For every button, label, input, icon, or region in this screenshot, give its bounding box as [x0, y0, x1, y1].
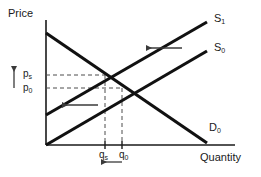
supply-curve-s1	[46, 22, 207, 115]
curve-lines	[46, 22, 207, 145]
price-tick-p0-base: p	[23, 82, 29, 93]
quantity-tick-label-q0: q0	[119, 150, 128, 160]
price-tick-ps-subscript: s	[29, 73, 33, 80]
quantity-tick-q0-subscript: 0	[125, 154, 129, 161]
curve-label-s1: S1	[214, 13, 225, 24]
quantity-tick-q0-base: q	[119, 149, 125, 160]
quantity-tick-qs-subscript: s	[105, 154, 109, 161]
supply-curve-s0	[46, 51, 207, 145]
curve-label-d0-subscript: 0	[217, 127, 221, 134]
price-tick-ps-base: p	[23, 68, 29, 79]
curve-label-s0-subscript: 0	[221, 47, 225, 54]
curve-label-d0-base: D	[209, 121, 217, 133]
price-tick-p0-subscript: 0	[29, 87, 33, 94]
curve-label-d0: D0	[209, 122, 221, 133]
quantity-tick-qs-base: q	[99, 149, 105, 160]
quantity-tick-label-qs: qs	[99, 150, 108, 160]
curve-label-s0: S0	[214, 42, 225, 53]
price-tick-label-p0: p0	[23, 83, 32, 93]
axis-lines	[46, 20, 235, 145]
price-tick-label-ps: ps	[23, 69, 32, 79]
curve-label-s1-subscript: 1	[221, 18, 225, 25]
supply-demand-figure: Price Quantity S1 S0 D0 ps p0 qs q0	[0, 0, 261, 177]
x-axis-label: Quantity	[200, 152, 241, 163]
y-axis-label: Price	[8, 8, 33, 19]
